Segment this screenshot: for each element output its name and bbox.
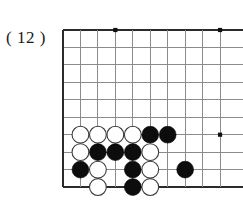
black-stone-c4-r9[interactable] — [124, 179, 141, 196]
black-stone-c5-r6[interactable] — [142, 126, 159, 143]
black-stone-c2-r7[interactable] — [90, 144, 107, 161]
black-stone-c1-r8[interactable] — [72, 161, 89, 178]
go-board[interactable] — [0, 0, 243, 209]
star-point-1 — [218, 28, 222, 32]
star-point-2 — [218, 133, 222, 137]
white-stone-c5-r9[interactable] — [142, 179, 159, 196]
white-stone-c4-r6[interactable] — [124, 126, 141, 143]
white-stone-c5-r8[interactable] — [142, 161, 159, 178]
black-stone-c6-r6[interactable] — [159, 126, 176, 143]
white-stone-c3-r6[interactable] — [107, 126, 124, 143]
black-stone-c4-r7[interactable] — [124, 144, 141, 161]
diagram-root: ( 12 ) — [0, 0, 243, 209]
white-stone-c1-r6[interactable] — [72, 126, 89, 143]
white-stone-c2-r8[interactable] — [90, 161, 107, 178]
white-stone-c5-r7[interactable] — [142, 144, 159, 161]
black-stone-c3-r7[interactable] — [107, 144, 124, 161]
black-stone-c4-r8[interactable] — [124, 161, 141, 178]
black-stone-c7-r8[interactable] — [177, 161, 194, 178]
white-stone-c2-r9[interactable] — [90, 179, 107, 196]
white-stone-c1-r7[interactable] — [72, 144, 89, 161]
star-point-0 — [113, 28, 117, 32]
go-board-canvas[interactable] — [0, 0, 243, 209]
white-stone-c2-r6[interactable] — [90, 126, 107, 143]
